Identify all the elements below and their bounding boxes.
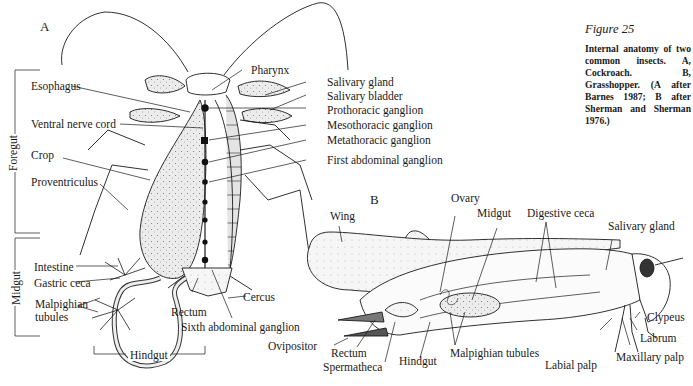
label-rectum-a: Rectum [171,306,207,318]
label-salivary-bladder: Salivary bladder [327,90,403,102]
label-prothoracic-ganglion: Prothoracic ganglion [327,104,423,116]
label-spermatheca: Spermatheca [323,361,382,373]
foregut-bracket-label: Foregut [7,134,19,172]
panel-a-letter: A [40,19,49,35]
label-labial-palp: Labial palp [545,359,597,371]
hindgut-bracket-label: Hindgut [128,349,170,361]
label-maxillary-palp: Maxillary palp [616,351,684,363]
label-esophagus: Esophagus [31,80,81,92]
label-midgut-b: Midgut [477,207,511,219]
label-malpighian-tubules-line2: tubules [35,311,68,323]
label-hindgut-b: Hindgut [399,355,437,367]
panel-b-letter: B [370,192,379,208]
label-proventriculus: Proventriculus [31,176,98,188]
label-malpighian-tubules-line1: Malpighian [35,298,88,310]
label-mesothoracic-ganglion: Mesothoracic ganglion [327,119,433,131]
label-ovary: Ovary [451,192,480,204]
label-metathoracic-ganglion: Metathoracic ganglion [327,134,431,146]
midgut-bracket-label: Midgut [10,270,22,306]
figure-caption: Internal anatomy of two common insects. … [585,43,691,127]
label-rectum-b: Rectum [331,347,367,359]
label-ventral-nerve-cord: Ventral nerve cord [31,118,116,130]
label-clypeus: Clypeus [647,311,685,323]
label-gastric-ceca: Gastric ceca [34,277,91,289]
label-ovipositor: Ovipositor [268,340,317,352]
label-cercus: Cercus [243,291,275,303]
label-pharynx: Pharynx [251,64,289,76]
label-salivary-gland-b: Salivary gland [608,220,675,232]
label-wing: Wing [330,210,355,222]
figure-caption-block: Figure 25 Internal anatomy of two common… [585,22,693,127]
label-intestine: Intestine [34,261,74,273]
label-digestive-ceca: Digestive ceca [527,207,594,219]
label-salivary-gland-a: Salivary gland [327,76,394,88]
label-first-abdominal-ganglion: First abdominal ganglion [327,154,443,166]
label-malpighian-tubules-b: Malpighian tubules [450,347,539,359]
label-labrum: Labrum [640,332,676,344]
figure-number: Figure 25 [585,22,693,37]
label-sixth-abdominal-ganglion: Sixth abdominal ganglion [181,321,300,333]
label-crop: Crop [31,149,54,161]
